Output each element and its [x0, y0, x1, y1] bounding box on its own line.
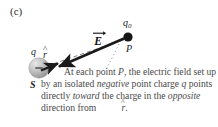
label-source-charge-q: q — [31, 47, 36, 57]
caption-segment-6: direction from — [41, 102, 99, 113]
label-field-vector-e-glyph: E — [93, 35, 102, 46]
caption-italic-opposite: opposite — [168, 90, 201, 101]
caption-italic-negative: negative — [97, 78, 130, 89]
e-vector-arrow-accent-icon: E — [92, 30, 107, 46]
label-unit-vector-r-hat: ^r — [43, 50, 47, 60]
r-hat-accent-icon: ^ — [43, 45, 47, 54]
figure-caption: At each point P, the electric field set … — [41, 66, 217, 114]
caption-segment-3: point charge — [129, 78, 181, 89]
label-test-charge-q0-subscript: 0 — [128, 22, 132, 30]
caption-vector-r-accent-icon: ^ — [98, 97, 125, 109]
figure-panel-c: (c) q ^r S E q0 P At each point P, the e… — [0, 0, 218, 127]
label-source-point-s: S — [30, 80, 36, 90]
label-test-charge-q0: q0 — [123, 18, 132, 30]
field-point-marker — [123, 32, 132, 41]
caption-vector-r: ^r — [99, 102, 126, 114]
panel-label: (c) — [10, 6, 22, 17]
label-field-vector-e: E — [92, 30, 107, 46]
label-field-point-p: P — [126, 44, 132, 54]
caption-segment-1: At each point — [64, 66, 118, 77]
caption-italic-toward: toward — [73, 90, 100, 101]
caption-segment-7: . — [125, 102, 127, 113]
